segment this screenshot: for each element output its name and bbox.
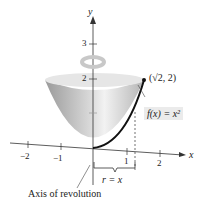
radius-label: r = x <box>102 174 122 185</box>
axis-of-revolution-label: Axis of revolution <box>28 188 101 199</box>
y-axis-arrow-icon <box>90 16 96 24</box>
x-tick-label: 2 <box>157 158 162 168</box>
x-tick-label: −1 <box>53 153 63 163</box>
point-label: (√2, 2) <box>149 72 176 83</box>
x-axis <box>10 143 183 155</box>
x-tick-label: −2 <box>20 151 30 161</box>
x-axis-arrow-icon <box>179 152 186 157</box>
y-tick-label: 2 <box>82 73 87 83</box>
y-tick-label: 3 <box>82 38 87 48</box>
x-tick-label: 1 <box>124 156 129 166</box>
point-marker <box>142 78 146 82</box>
y-axis-label: y <box>88 6 92 17</box>
x-axis-label: x <box>189 149 193 160</box>
axis-pointer-line <box>77 165 90 188</box>
paraboloid-top <box>45 73 144 87</box>
radius-brace <box>94 162 135 172</box>
diagram: y x −2 −1 1 2 2 3 (√2, 2) f(x) = x² r = … <box>0 0 207 209</box>
paraboloid-surface <box>45 80 144 138</box>
function-label: f(x) = x² <box>144 107 183 120</box>
